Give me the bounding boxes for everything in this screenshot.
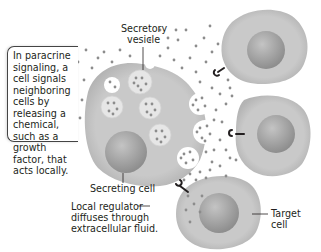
molecule-dot <box>211 51 214 54</box>
callout-line: neighboring <box>13 85 78 97</box>
callout-line: In paracrine <box>13 50 78 62</box>
molecule-dot <box>109 81 112 84</box>
molecule-dot <box>81 99 84 102</box>
molecule-dot <box>187 195 190 198</box>
secreting-cell-label: Secreting cell <box>90 183 155 194</box>
molecule-dot <box>209 25 212 28</box>
molecule-dot <box>85 49 88 52</box>
molecule-dot <box>180 157 183 160</box>
molecule-dot <box>141 77 144 80</box>
callout-line: signaling, a <box>13 62 78 74</box>
molecule-dot <box>209 133 212 136</box>
molecule-dot <box>137 85 140 88</box>
molecule-dot <box>116 108 119 111</box>
molecule-dot <box>199 171 202 174</box>
molecule-dot <box>205 61 208 64</box>
molecule-dot <box>231 95 234 98</box>
molecule-dot <box>189 151 192 154</box>
molecule-dot <box>201 137 204 140</box>
molecule-dot <box>177 39 180 42</box>
molecule-dot <box>150 114 153 117</box>
receptor-icon <box>214 68 224 76</box>
callout-line: factor, that <box>13 154 78 166</box>
molecule-dot <box>206 125 209 128</box>
label-line: extracellular fluid. <box>71 223 158 234</box>
molecule-dot <box>164 136 167 139</box>
molecule-dot <box>192 104 195 107</box>
molecule-dot <box>151 103 154 106</box>
molecule-dot <box>113 102 116 105</box>
molecule-dot <box>201 195 204 198</box>
molecule-dot <box>195 45 198 48</box>
molecule-dot <box>185 29 188 32</box>
label-line: vesicle <box>121 34 167 45</box>
molecule-dot <box>189 173 192 176</box>
molecule-dot <box>225 103 228 106</box>
molecule-dot <box>161 130 164 133</box>
molecule-dot <box>203 37 206 40</box>
molecule-dot <box>145 103 148 106</box>
molecule-dot <box>211 161 214 164</box>
molecule-dot <box>189 221 192 224</box>
callout-line: cell signals <box>13 73 78 85</box>
secreting-cell <box>85 59 217 186</box>
molecule-dot <box>79 117 82 120</box>
molecule-dot <box>155 130 158 133</box>
callout-line: such as a <box>13 131 78 143</box>
molecule-dot <box>213 119 216 122</box>
target-cell-label: Target cell <box>271 208 301 230</box>
molecule-dot <box>97 57 100 60</box>
molecule-dot <box>193 203 196 206</box>
molecule-dot <box>133 82 136 85</box>
molecule-dot <box>225 149 228 152</box>
molecule-dot <box>219 93 222 96</box>
molecule-dot <box>146 111 149 114</box>
molecule-dot <box>221 121 224 124</box>
molecule-dot <box>205 177 208 180</box>
molecule-dot <box>160 141 163 144</box>
molecule-dot <box>205 151 208 154</box>
molecule-dot <box>225 175 228 178</box>
molecule-dot <box>199 127 202 130</box>
molecule-dot <box>83 79 86 82</box>
paracrine-description-callout: In paracrine signaling, a cell signals n… <box>7 46 78 142</box>
callout-line: growth <box>13 142 78 154</box>
molecule-dot <box>219 165 222 168</box>
target-cell-middle <box>236 95 311 176</box>
molecule-dot <box>215 109 218 112</box>
local-regulator-label: Local regulator diffuses through extrace… <box>71 201 158 235</box>
label-line: Secretory <box>121 23 167 34</box>
callout-line: releasing a <box>13 108 78 120</box>
label-line: cell <box>271 219 301 230</box>
molecule-dot <box>209 169 212 172</box>
molecule-dot <box>135 77 138 80</box>
molecule-dot <box>196 131 199 134</box>
molecule-dot <box>201 97 204 100</box>
molecule-dot <box>192 159 195 162</box>
molecule-dot <box>167 47 170 50</box>
molecule-dot <box>183 179 186 182</box>
label-line: Local regulator <box>71 201 158 212</box>
molecule-dot <box>156 138 159 141</box>
callout-line: cells by <box>13 96 78 108</box>
molecule-dot <box>219 139 222 142</box>
molecule-dot <box>197 109 200 112</box>
callout-line: acts locally. <box>13 165 78 177</box>
molecule-dot <box>159 55 162 58</box>
molecule-dot <box>183 153 186 156</box>
molecule-dot <box>189 57 192 60</box>
molecule-dot <box>211 87 214 90</box>
molecule-dot <box>129 55 132 58</box>
molecule-dot <box>91 67 94 70</box>
molecule-dot <box>112 113 115 116</box>
target-cell-bottom <box>176 176 261 249</box>
secreting-cell-nucleus <box>105 131 147 173</box>
molecule-dot <box>154 109 157 112</box>
molecule-dot <box>195 179 198 182</box>
molecule-dot <box>119 49 122 52</box>
molecule-dot <box>108 110 111 113</box>
molecule-dot <box>227 79 230 82</box>
molecule-dot <box>107 102 110 105</box>
target-cell-top <box>221 10 307 84</box>
molecule-dot <box>175 29 178 32</box>
